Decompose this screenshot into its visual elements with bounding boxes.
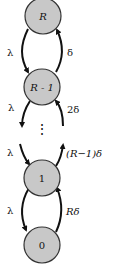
edge-0-to-1 <box>56 188 61 232</box>
ellipsis: ⋮ <box>35 121 49 137</box>
edge-up-to-R-1 <box>56 101 63 126</box>
edge-1-up <box>56 145 63 166</box>
edge-label: λ <box>7 147 14 158</box>
edge-R-to-R-1 <box>22 29 28 72</box>
node-label: 0 <box>39 240 45 251</box>
edge-label: λ <box>8 102 15 113</box>
node-label: R <box>38 11 47 22</box>
edge-label: 2δ <box>67 104 79 115</box>
node-label: R - 1 <box>29 82 54 93</box>
node-R-1: R - 1 <box>24 69 60 105</box>
edge-R-1-down <box>22 101 30 126</box>
edge-down-to-1 <box>20 144 29 164</box>
edge-1-to-0 <box>22 188 29 230</box>
edge-label: λ <box>7 47 14 58</box>
edge-label: (R−1)δ <box>66 148 102 159</box>
node-label: 1 <box>39 173 45 184</box>
node-R: R <box>25 0 61 34</box>
birth-death-diagram: R R - 1 1 0 ⋮ λ δ λ 2δ λ (R−1)δ λ Rδ <box>0 0 117 271</box>
edge-label: δ <box>67 47 73 58</box>
edge-label: Rδ <box>65 206 80 217</box>
edge-label: λ <box>7 205 14 216</box>
edge-R-1-to-R <box>56 30 62 72</box>
node-0: 0 <box>24 227 60 263</box>
node-1: 1 <box>24 160 60 196</box>
